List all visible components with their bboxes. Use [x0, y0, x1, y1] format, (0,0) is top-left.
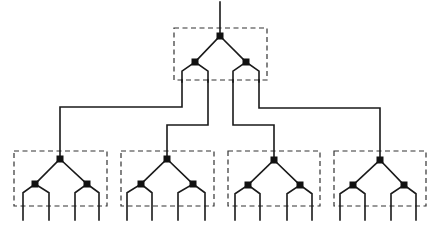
bottom-module-1-root-node	[164, 156, 171, 163]
bottom-module-3-child-node-0	[350, 182, 357, 189]
bottom-module-2-leaf-1	[248, 185, 260, 220]
top-module-child-node-1	[243, 59, 250, 66]
interconnect-wire-1	[167, 80, 208, 159]
bottom-module-0-leaf-3	[87, 184, 99, 220]
top-module-branch-0	[195, 36, 220, 62]
bottom-module-3-leaf-3	[404, 185, 416, 220]
bottom-module-3-child-node-1	[401, 182, 408, 189]
top-module-root-node	[217, 33, 224, 40]
tree-network-diagram	[0, 0, 439, 236]
bottom-module-3-branch-0	[353, 160, 380, 185]
module-boxes	[14, 28, 426, 206]
bottom-module-0-branch-0	[35, 159, 60, 184]
bottom-module-0-root-node	[57, 156, 64, 163]
bottom-module-3-root-node	[377, 157, 384, 164]
bottom-module-0-leaf-2	[75, 184, 87, 220]
bottom-module-2-leaf-0	[235, 185, 248, 220]
bottom-module-1-leaf-3	[193, 184, 205, 220]
interconnect-wire-0	[60, 80, 182, 159]
bottom-module-0-child-node-0	[32, 181, 39, 188]
bottom-module-2-root-node	[271, 157, 278, 164]
bottom-module-0-child-node-1	[84, 181, 91, 188]
top-module-branch-1	[220, 36, 246, 62]
interconnect-wire-3	[259, 80, 380, 160]
bottom-module-3-leaf-1	[353, 185, 365, 220]
interconnect-wire-2	[233, 80, 274, 160]
bottom-module-1-leaf-2	[178, 184, 193, 220]
bottom-module-1-leaf-1	[141, 184, 152, 220]
bottom-module-1-child-node-0	[138, 181, 145, 188]
bottom-module-2-leaf-3	[300, 185, 312, 220]
bottom-module-3-leaf-0	[340, 185, 353, 220]
bottom-module-1-child-node-1	[190, 181, 197, 188]
switch-nodes	[32, 33, 408, 189]
bottom-module-1-branch-1	[167, 159, 193, 184]
bottom-module-2-branch-0	[248, 160, 274, 185]
bottom-module-2-branch-1	[274, 160, 300, 185]
top-module-child-node-0	[192, 59, 199, 66]
bottom-module-0-branch-1	[60, 159, 87, 184]
bottom-module-2-leaf-2	[287, 185, 300, 220]
bottom-module-3-branch-1	[380, 160, 404, 185]
bottom-module-1-branch-0	[141, 159, 167, 184]
bottom-module-0-leaf-0	[23, 184, 35, 220]
bottom-module-2-child-node-1	[297, 182, 304, 189]
bottom-module-0-leaf-1	[35, 184, 49, 220]
bottom-module-2-child-node-0	[245, 182, 252, 189]
bottom-module-1-leaf-0	[127, 184, 141, 220]
bottom-module-3-leaf-2	[391, 185, 404, 220]
